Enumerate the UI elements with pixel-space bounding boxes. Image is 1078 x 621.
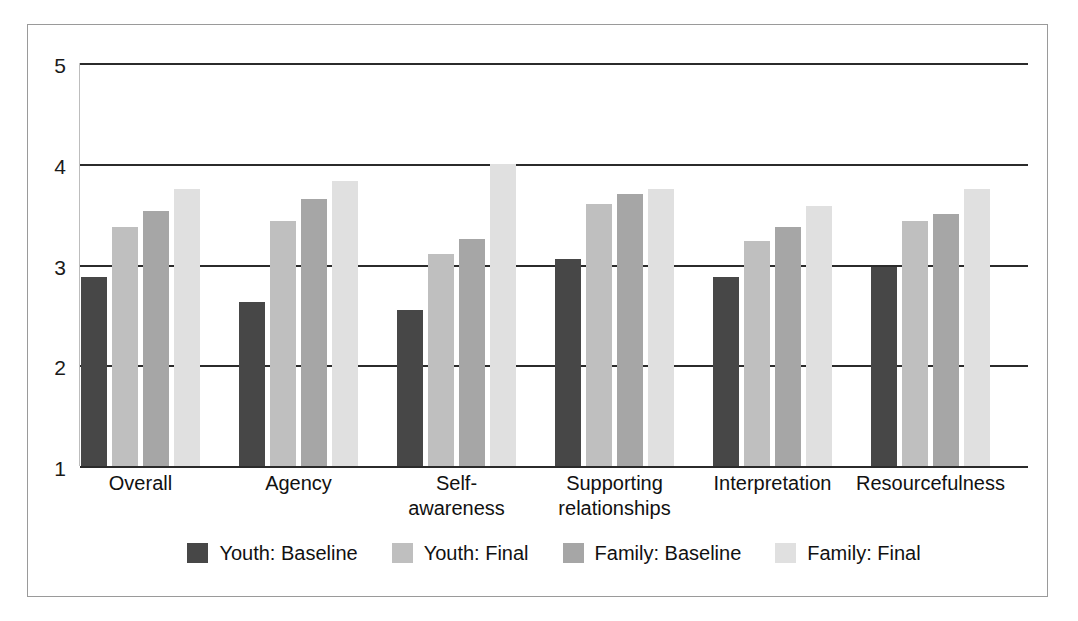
y-tick-label: 3	[54, 256, 66, 277]
bar	[617, 194, 643, 466]
y-tick-label: 4	[54, 155, 66, 176]
legend-swatch	[563, 543, 584, 563]
x-axis-label: Overall	[65, 471, 216, 496]
chart-legend: Youth: BaselineYouth: FinalFamily: Basel…	[80, 537, 1028, 569]
x-axis-label: Self- awareness	[381, 471, 532, 521]
bar	[871, 267, 897, 466]
bar	[143, 211, 169, 466]
bars-layer	[80, 63, 1028, 466]
bar	[775, 227, 801, 466]
bar-group	[871, 63, 990, 466]
bar	[490, 164, 516, 466]
plot-area: 12345	[80, 63, 1028, 466]
bar	[112, 227, 138, 466]
bar	[332, 181, 358, 466]
x-axis-label: Agency	[223, 471, 374, 496]
y-tick-label: 5	[54, 55, 66, 76]
legend-item: Family: Final	[775, 543, 920, 563]
legend-swatch	[187, 543, 208, 563]
bar	[933, 214, 959, 466]
bar	[744, 241, 770, 466]
bar-group	[239, 63, 358, 466]
bar	[648, 189, 674, 466]
bar	[81, 277, 107, 466]
bar	[397, 310, 423, 466]
bar	[428, 254, 454, 466]
bar	[713, 277, 739, 466]
legend-item: Youth: Final	[392, 543, 529, 563]
legend-label: Family: Final	[807, 543, 920, 563]
legend-label: Family: Baseline	[595, 543, 742, 563]
chart-figure: 12345 OverallAgencySelf- awarenessSuppor…	[0, 0, 1078, 621]
bar	[301, 199, 327, 466]
x-axis-label: Supporting relationships	[539, 471, 690, 521]
bar-group	[81, 63, 200, 466]
bar-group	[555, 63, 674, 466]
x-axis-labels: OverallAgencySelf- awarenessSupporting r…	[80, 471, 1028, 533]
bar	[902, 221, 928, 466]
bar-group	[713, 63, 832, 466]
legend-label: Youth: Baseline	[219, 543, 357, 563]
bar	[964, 189, 990, 466]
bar	[555, 259, 581, 466]
legend-label: Youth: Final	[424, 543, 529, 563]
figure-frame: 12345 OverallAgencySelf- awarenessSuppor…	[27, 24, 1048, 597]
bar	[586, 204, 612, 466]
x-axis-label: Resourcefulness	[855, 471, 1006, 496]
x-axis-label: Interpretation	[697, 471, 848, 496]
bar	[270, 221, 296, 466]
y-tick-label: 2	[54, 357, 66, 378]
legend-item: Youth: Baseline	[187, 543, 357, 563]
bar-group	[397, 63, 516, 466]
bar	[806, 206, 832, 466]
legend-swatch	[392, 543, 413, 563]
legend-item: Family: Baseline	[563, 543, 742, 563]
gridline-1: 1	[80, 466, 1028, 468]
legend-swatch	[775, 543, 796, 563]
bar	[239, 302, 265, 466]
bar	[174, 189, 200, 466]
bar	[459, 239, 485, 466]
